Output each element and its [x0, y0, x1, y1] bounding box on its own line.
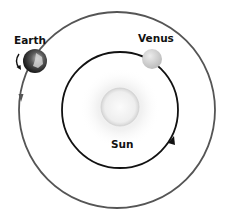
solar-orbit-diagram: Earth Venus Sun [0, 0, 229, 217]
earth-rotation-arrow-icon [17, 54, 20, 68]
sun [101, 88, 139, 126]
venus [142, 49, 162, 69]
venus-label: Venus [138, 32, 174, 44]
sun-label: Sun [111, 138, 134, 150]
earth-label: Earth [14, 34, 46, 46]
